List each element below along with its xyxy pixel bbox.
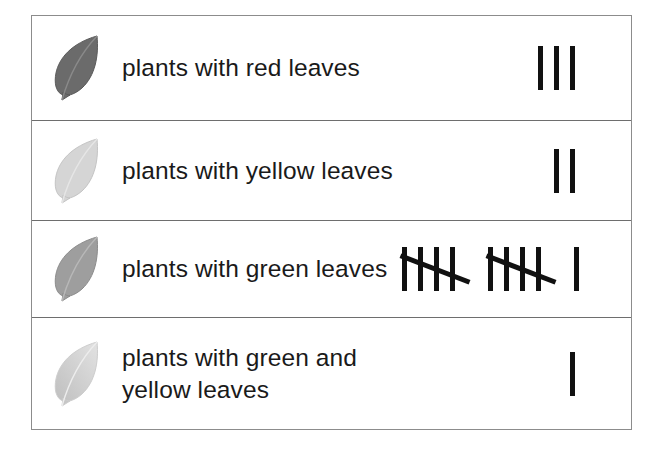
leaf-icon-medium: [52, 233, 104, 305]
tally-cell: [416, 352, 631, 396]
leaf-icon-cell: [32, 338, 118, 410]
tally-group: [402, 247, 466, 291]
leaf-icon-light: [52, 135, 104, 207]
row-label: plants with yellow leaves: [118, 155, 416, 186]
tally-group: [488, 247, 552, 291]
tally-stick: [418, 247, 423, 291]
tally-group: [570, 149, 575, 193]
leaf-icon-cell: [32, 233, 118, 305]
tally-stick: [538, 46, 543, 90]
table-row: plants with green leaves: [32, 221, 631, 318]
tally-marks: [570, 352, 575, 396]
tally-cell: [416, 149, 631, 193]
tally-group: [574, 247, 579, 291]
table-row: plants with yellow leaves: [32, 121, 631, 221]
tally-stick: [570, 352, 575, 396]
table-row: plants with green and yellow leaves: [32, 318, 631, 429]
row-label: plants with green and yellow leaves: [118, 342, 416, 404]
tally-marks: [554, 149, 575, 193]
tally-group: [538, 46, 543, 90]
tally-cell: [416, 247, 631, 291]
tally-group: [570, 352, 575, 396]
tally-stick: [570, 46, 575, 90]
tally-stick: [574, 247, 579, 291]
tally-stick: [450, 247, 455, 291]
tally-group: [554, 46, 559, 90]
leaf-icon-cell: [32, 135, 118, 207]
table-row: plants with red leaves: [32, 16, 631, 121]
tally-stick: [554, 149, 559, 193]
row-label: plants with red leaves: [118, 52, 416, 83]
tally-stick: [570, 149, 575, 193]
tally-chart-table: plants with red leaves plants with yello…: [31, 15, 632, 430]
leaf-icon-dark: [52, 32, 104, 104]
tally-stick: [536, 247, 541, 291]
tally-stick: [554, 46, 559, 90]
tally-stick: [504, 247, 509, 291]
row-label: plants with green leaves: [118, 253, 416, 284]
leaf-icon-cell: [32, 32, 118, 104]
tally-marks: [402, 247, 579, 291]
tally-group: [554, 149, 559, 193]
leaf-icon-gradient: [52, 338, 104, 410]
tally-group: [570, 46, 575, 90]
tally-cell: [416, 46, 631, 90]
tally-marks: [538, 46, 575, 90]
